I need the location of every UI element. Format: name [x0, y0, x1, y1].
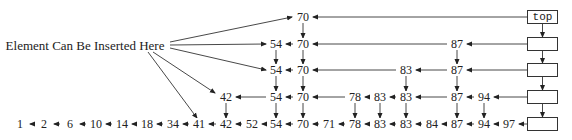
list-node: 10 [89, 118, 103, 130]
list-node: 83 [399, 118, 413, 130]
list-node: 84 [425, 118, 439, 130]
list-node: 83 [373, 91, 387, 103]
head-box [527, 90, 558, 104]
list-node: 83 [399, 91, 413, 103]
list-node: 78 [348, 118, 362, 130]
list-node: 87 [450, 38, 464, 50]
list-node: 54 [269, 118, 283, 130]
top-head-box: top [527, 10, 558, 24]
list-node: 52 [245, 118, 259, 130]
list-node: 97 [502, 118, 516, 130]
head-box [527, 63, 558, 77]
list-node: 42 [219, 118, 233, 130]
list-node: 41 [192, 118, 206, 130]
list-node: 71 [322, 118, 336, 130]
insert-position-label: Element Can Be Inserted Here [6, 39, 165, 52]
list-node: 83 [399, 64, 413, 76]
list-node: 14 [115, 118, 129, 130]
list-node: 78 [348, 91, 362, 103]
list-node: 1 [16, 118, 24, 130]
list-node: 70 [296, 38, 310, 50]
list-node: 87 [450, 64, 464, 76]
list-node: 54 [269, 64, 283, 76]
head-box [527, 37, 558, 51]
top-label: top [528, 11, 557, 23]
list-node: 70 [296, 91, 310, 103]
list-node: 34 [166, 118, 180, 130]
list-node: 18 [140, 118, 154, 130]
list-node: 94 [477, 118, 491, 130]
list-node: 83 [373, 118, 387, 130]
list-node: 6 [66, 118, 74, 130]
head-box [527, 117, 558, 131]
list-node: 2 [40, 118, 48, 130]
list-node: 70 [296, 11, 310, 23]
list-node: 94 [477, 91, 491, 103]
list-node: 70 [296, 64, 310, 76]
list-node: 70 [296, 118, 310, 130]
list-node: 42 [219, 91, 233, 103]
list-node: 87 [450, 118, 464, 130]
list-node: 54 [269, 91, 283, 103]
list-node: 54 [269, 38, 283, 50]
list-node: 87 [450, 91, 464, 103]
